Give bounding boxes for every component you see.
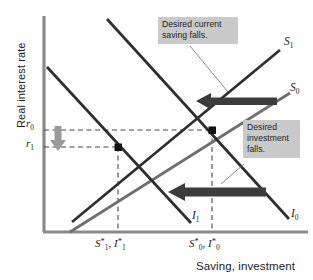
x-tick-label-s1i1: S*1, I*1 (95, 238, 126, 249)
S1-subscript: 1 (290, 41, 294, 50)
callout-investment-falls: Desired investment falls. (243, 120, 300, 158)
r0-subscript: 0 (30, 123, 34, 132)
S0-subscript: 0 (296, 87, 300, 96)
r1-subscript: 1 (30, 143, 34, 152)
investment-shift-arrow (168, 183, 266, 201)
y-tick-label-r0: r0 (26, 118, 34, 129)
callout-saving-falls: Desired current saving falls. (158, 17, 238, 44)
s1-letter: S (95, 237, 101, 249)
x-tick-label-s0i0: S*0, I*0 (189, 238, 220, 249)
curve-label-I1: I1 (192, 210, 200, 222)
saving-shift-arrow (196, 93, 277, 110)
curve-label-I0: I0 (291, 208, 299, 220)
x-axis-title: Saving, investment (196, 261, 295, 273)
y-tick-label-r1: r1 (26, 138, 34, 149)
figure-root: Real interest rate Saving, investment r0… (0, 0, 313, 280)
leader-line-saving (190, 46, 228, 92)
leader-line-investment (221, 164, 244, 184)
S0-letter: S (290, 81, 296, 93)
I1-subscript: 1 (196, 215, 200, 224)
curve-label-S1: S1 (284, 36, 294, 48)
i0-subscript: 0 (216, 243, 220, 252)
s0-subscript: 0 (199, 243, 203, 252)
I0-subscript: 0 (295, 213, 299, 222)
S1-letter: S (284, 35, 290, 47)
y-axis-title: Real interest rate (16, 42, 27, 128)
equilibrium-point-initial (209, 127, 217, 135)
equilibrium-point-new (115, 144, 123, 152)
curve-label-S0: S0 (290, 82, 300, 94)
economics-diagram: Real interest rate Saving, investment r0… (0, 0, 313, 280)
s1-subscript: 1 (105, 243, 109, 252)
i1-subscript: 1 (122, 243, 126, 252)
s0-letter: S (189, 237, 195, 249)
